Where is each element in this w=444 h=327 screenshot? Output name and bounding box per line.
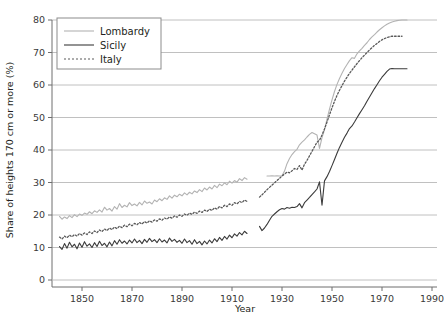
series-line-sicily: [260, 68, 408, 230]
y-tick-label: 60: [33, 79, 45, 90]
x-axis-title: Year: [234, 303, 255, 314]
y-tick-label: 70: [33, 47, 45, 58]
y-tick-label: 40: [33, 144, 45, 155]
series-line-italy: [260, 36, 403, 197]
x-axis-ticks: 18501870189019101930195019701990: [70, 287, 444, 304]
y-tick-label: 80: [33, 14, 45, 25]
y-tick-label: 50: [33, 112, 45, 123]
y-axis-title: Share of heights 170 cm or more (%): [4, 62, 15, 238]
x-tick-label: 1990: [420, 293, 444, 304]
x-tick-label: 1870: [120, 293, 144, 304]
x-tick-label: 1970: [370, 293, 394, 304]
x-tick-label: 1890: [170, 293, 194, 304]
y-tick-label: 20: [33, 209, 45, 220]
x-tick-label: 1950: [320, 293, 344, 304]
x-tick-label: 1850: [70, 293, 94, 304]
legend-label-italy: Italy: [100, 54, 122, 65]
legend-label-lombardy: Lombardy: [100, 26, 150, 37]
chart-figure: 01020304050607080 1850187018901910193019…: [0, 0, 444, 327]
legend-label-sicily: Sicily: [100, 40, 126, 51]
chart-legend: Lombardy Sicily Italy: [57, 18, 161, 69]
y-axis-ticks: 01020304050607080: [33, 14, 52, 285]
series-line-lombardy: [60, 178, 248, 220]
y-tick-label: 10: [33, 242, 45, 253]
y-tick-label: 30: [33, 177, 45, 188]
x-tick-label: 1930: [270, 293, 294, 304]
y-tick-label: 0: [39, 274, 45, 285]
line-chart: 01020304050607080 1850187018901910193019…: [0, 0, 444, 327]
series-line-italy: [60, 200, 248, 239]
